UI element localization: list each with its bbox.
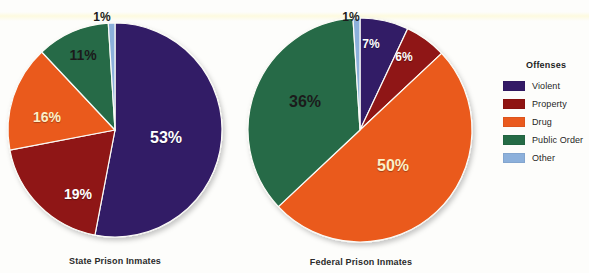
legend-item-label: Violent xyxy=(532,81,560,91)
legend-item-property[interactable]: Property xyxy=(503,95,589,113)
legend-swatch-icon xyxy=(503,153,525,163)
legend: Offenses ViolentPropertyDrugPublic Order… xyxy=(503,60,589,167)
legend-swatch-icon xyxy=(503,81,525,91)
pie-chart-state xyxy=(2,17,228,243)
legend-item-other[interactable]: Other xyxy=(503,149,589,167)
pie-chart-federal xyxy=(242,12,478,248)
legend-item-label: Public Order xyxy=(532,135,583,145)
legend-item-label: Other xyxy=(532,153,555,163)
legend-item-violent[interactable]: Violent xyxy=(503,77,589,95)
legend-swatch-icon xyxy=(503,135,525,145)
pie-caption-federal: Federal Prison Inmates xyxy=(310,257,412,267)
clipped-figure-title xyxy=(0,0,589,4)
legend-swatch-icon xyxy=(503,117,525,127)
legend-item-label: Drug xyxy=(532,117,552,127)
legend-item-public-order[interactable]: Public Order xyxy=(503,131,589,149)
legend-items: ViolentPropertyDrugPublic OrderOther xyxy=(503,77,589,167)
legend-swatch-icon xyxy=(503,99,525,109)
legend-item-label: Property xyxy=(532,99,567,109)
pie-chart-figure: State Prison Inmates Federal Prison Inma… xyxy=(0,0,589,273)
legend-item-drug[interactable]: Drug xyxy=(503,113,589,131)
legend-title: Offenses xyxy=(526,60,589,70)
pie-caption-state: State Prison Inmates xyxy=(69,256,161,266)
